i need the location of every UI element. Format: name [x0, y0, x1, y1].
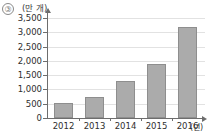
- y-axis-tick-label: 2,500: [0, 42, 42, 52]
- y-axis-tick-label: 3,500: [0, 13, 42, 23]
- bar-chart-figure: ③ (만 개) 05001,0001,5002,0002,5003,0003,5…: [0, 0, 216, 134]
- y-axis-tick-label: 0: [0, 113, 42, 123]
- y-axis-tick: [43, 75, 48, 76]
- x-axis-tick-label: 2013: [84, 121, 106, 131]
- x-axis-tick: [172, 118, 173, 121]
- y-axis-tick-label: 3,000: [0, 27, 42, 37]
- y-axis-tick-label: 1,500: [0, 70, 42, 80]
- y-axis-tick: [43, 118, 48, 119]
- bar-2015: [147, 64, 166, 118]
- y-axis-tick: [43, 18, 48, 19]
- x-axis-tick-label: 2014: [115, 121, 137, 131]
- y-axis-tick: [43, 47, 48, 48]
- y-axis-tick-label: 500: [0, 99, 42, 109]
- y-axis-tick-labels: 05001,0001,5002,0002,5003,0003,500: [0, 0, 42, 134]
- bar-2013: [85, 97, 104, 118]
- gridline: [48, 18, 205, 19]
- x-axis-tick: [110, 118, 111, 121]
- x-axis-tick-label: 2015: [146, 121, 168, 131]
- bar-2016: [178, 27, 197, 118]
- x-axis-tick: [141, 118, 142, 121]
- x-axis-unit-label: (년): [190, 121, 203, 132]
- y-axis-tick: [43, 32, 48, 33]
- bar-2012: [54, 103, 73, 118]
- y-axis-tick-label: 1,000: [0, 84, 42, 94]
- y-axis-tick: [43, 61, 48, 62]
- y-axis-tick: [43, 104, 48, 105]
- y-axis-tick: [43, 89, 48, 90]
- x-axis-line: [47, 118, 203, 119]
- y-axis-tick-label: 2,000: [0, 56, 42, 66]
- bar-2014: [116, 81, 135, 118]
- x-axis-tick-label: 2012: [53, 121, 75, 131]
- x-axis-tick: [79, 118, 80, 121]
